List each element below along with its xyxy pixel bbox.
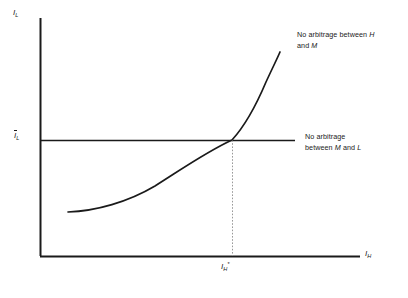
annotation-ml-line2-pre: between xyxy=(305,143,335,152)
y-intercept-sub: L xyxy=(16,135,19,141)
annotation-ml-symbol-l: L xyxy=(357,143,361,152)
annotation-no-arbitrage-ml: No arbitrage between M and L xyxy=(305,132,361,153)
annotation-hm-line1-text: No arbitrage between xyxy=(297,30,369,39)
figure-container: IL IH IL IH* No arbitrage between H and … xyxy=(0,0,408,298)
annotation-no-arbitrage-hm: No arbitrage between H and M xyxy=(297,30,375,51)
annotation-ml-line1: No arbitrage xyxy=(305,132,361,143)
x-star-tick-label: IH* xyxy=(221,262,229,271)
annotation-hm-line1: No arbitrage between H xyxy=(297,30,375,41)
x-star-sup: * xyxy=(228,261,230,267)
annotation-hm-line2-symbol: M xyxy=(311,41,317,50)
y-axis-label: IL xyxy=(13,8,18,17)
x-star-sub: H xyxy=(223,266,227,272)
no-arbitrage-hm-curve xyxy=(68,52,280,212)
x-axis-label-sub: H xyxy=(367,253,371,259)
annotation-ml-line2-mid: and xyxy=(341,143,357,152)
annotation-hm-line1-symbol: H xyxy=(369,30,374,39)
annotation-hm-line2: and M xyxy=(297,41,375,52)
x-axis-label: IH xyxy=(365,249,371,258)
y-intercept-tick-label: IL xyxy=(14,131,19,140)
y-axis-label-sub: L xyxy=(15,12,18,18)
annotation-ml-line2: between M and L xyxy=(305,143,361,154)
annotation-hm-line2-text: and xyxy=(297,41,311,50)
